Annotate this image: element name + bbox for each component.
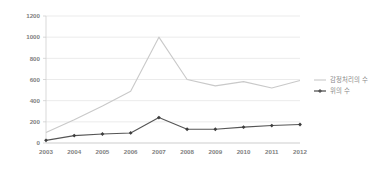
y-tick-label: 800 [30,55,41,62]
y-tick-label: 1200 [26,12,40,19]
x-tick-label: 2011 [265,148,279,155]
chart-canvas: 120010008006004002000 200320042005200620… [0,0,381,174]
y-tick-label: 600 [30,76,41,83]
x-tick-label: 2008 [180,148,194,155]
x-tick-label: 2012 [293,148,307,155]
legend-label-1: 감정처리의 수 [330,75,368,84]
x-tick-label: 2004 [67,148,81,155]
x-tick-label: 2006 [124,148,138,155]
y-tick-label: 400 [30,97,41,104]
y-tick-label: 0 [37,139,41,146]
x-tick-label: 2003 [39,148,53,155]
x-tick-label: 2005 [96,148,110,155]
x-tick-label: 2009 [208,148,222,155]
y-tick-label: 1000 [26,33,40,40]
x-tick-label: 2010 [237,148,251,155]
line-chart: 120010008006004002000 200320042005200620… [0,0,381,174]
x-tick-label: 2007 [152,148,166,155]
y-tick-label: 200 [30,118,41,125]
legend-label-2: 위의 수 [330,86,350,95]
